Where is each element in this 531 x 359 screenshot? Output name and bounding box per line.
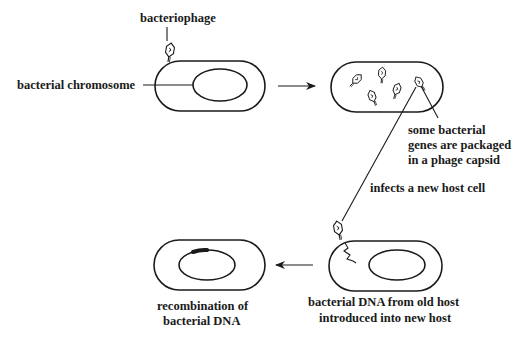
label-bacteriophage: bacteriophage	[140, 11, 216, 25]
stage-recombination: recombination of bacterial DNA	[154, 240, 265, 328]
recombined-chromosome	[179, 250, 235, 280]
infecting-phage-icon	[333, 220, 344, 240]
label-infects: infects a new host cell	[370, 181, 486, 195]
phage-icon-packaged	[413, 75, 427, 92]
label-recombination-1: recombination of	[157, 299, 249, 313]
label-introduced-1: bacterial DNA from old host	[308, 295, 460, 309]
stage-packaging: some bacterial genes are packaged in a p…	[331, 62, 511, 167]
packaged-leader	[421, 86, 438, 118]
label-introduced-2: introduced into new host	[319, 311, 452, 325]
label-packaged-1: some bacterial	[408, 123, 486, 137]
stage-new-host: bacterial DNA from old host introduced i…	[308, 220, 460, 325]
stage-infection: bacteriophage bacterial chromosome	[17, 11, 265, 111]
bacterial-cell-2	[331, 62, 443, 112]
label-packaged-3: in a phage capsid	[408, 153, 500, 167]
bacterial-cell-4	[154, 240, 265, 290]
bacteriophage-icon	[164, 42, 175, 62]
label-packaged-2: genes are packaged	[408, 138, 511, 152]
bacterial-cell-1	[155, 61, 265, 111]
bacterial-chromosome-1	[193, 69, 247, 101]
label-bacterial-chromosome: bacterial chromosome	[17, 78, 136, 92]
phage-icon-d	[390, 82, 402, 100]
phage-icon-a	[347, 72, 363, 88]
recombined-segment	[193, 250, 207, 252]
phage-icon-c	[367, 89, 379, 107]
injected-dna	[344, 243, 356, 263]
host-chromosome-3	[369, 250, 425, 280]
label-recombination-2: bacterial DNA	[163, 314, 240, 328]
infects-path-line	[342, 87, 416, 221]
phage-icon-b	[378, 67, 386, 84]
transduction-diagram: bacteriophage bacterial chromosome some …	[0, 0, 531, 359]
